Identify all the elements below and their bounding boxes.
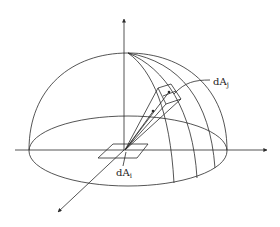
- dome-outline: [29, 53, 227, 150]
- label-dA-i: dAi: [116, 167, 133, 180]
- meridian-arc-1: [128, 53, 174, 183]
- leader-dA-i: [123, 152, 126, 166]
- midray-point: [152, 110, 155, 113]
- receiving-point: [168, 91, 171, 94]
- ray-4: [125, 99, 181, 150]
- hemisphere-diagram: dAj dAi: [0, 0, 280, 227]
- label-dA-j: dAj: [213, 76, 229, 89]
- depth-axis: [58, 150, 124, 212]
